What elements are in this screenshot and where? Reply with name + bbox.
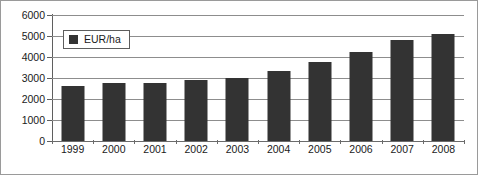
bar xyxy=(267,71,290,141)
x-axis-labels: 1999200020012002200320042005200620072008 xyxy=(52,144,464,164)
bar-chart: 0100020003000400050006000 19992000200120… xyxy=(0,0,478,175)
x-axis-tick xyxy=(134,140,135,144)
x-axis-tick xyxy=(93,140,94,144)
legend-label: EUR/ha xyxy=(84,34,121,45)
y-axis-tick-label: 6000 xyxy=(3,10,45,21)
y-axis-labels: 0100020003000400050006000 xyxy=(1,1,45,175)
y-axis-tick-label: 1000 xyxy=(3,115,45,126)
bar-slot xyxy=(217,15,258,141)
x-axis-tick xyxy=(217,140,218,144)
x-axis-tick-label: 2008 xyxy=(432,144,455,155)
legend-swatch-icon xyxy=(69,35,78,44)
x-axis-tick-label: 2001 xyxy=(143,144,166,155)
x-axis-tick-label: 2003 xyxy=(226,144,249,155)
bar-slot xyxy=(176,15,217,141)
y-axis-tick-label: 0 xyxy=(3,136,45,147)
bar-slot xyxy=(258,15,299,141)
y-axis-tick-label: 3000 xyxy=(3,73,45,84)
x-axis-tick-label: 2007 xyxy=(391,144,414,155)
x-axis-tick-label: 2006 xyxy=(349,144,372,155)
bar-slot xyxy=(382,15,423,141)
legend: EUR/ha xyxy=(63,30,130,49)
x-axis-tick xyxy=(340,140,341,144)
x-axis-tick xyxy=(423,140,424,144)
bar xyxy=(226,78,249,141)
bar-slot xyxy=(134,15,175,141)
x-axis-tick xyxy=(258,140,259,144)
x-axis-tick-label: 2000 xyxy=(102,144,125,155)
bar xyxy=(61,86,84,141)
bar-slot xyxy=(299,15,340,141)
bar xyxy=(143,83,166,141)
x-axis-tick xyxy=(382,140,383,144)
bar xyxy=(349,52,372,141)
x-axis-tick-label: 2002 xyxy=(185,144,208,155)
x-axis-tick xyxy=(52,140,53,144)
bar xyxy=(391,40,414,141)
y-axis-tick-label: 4000 xyxy=(3,52,45,63)
y-axis-tick-label: 2000 xyxy=(3,94,45,105)
x-axis-tick-label: 2005 xyxy=(308,144,331,155)
x-axis-tick-label: 2004 xyxy=(267,144,290,155)
x-axis-tick xyxy=(176,140,177,144)
bar xyxy=(432,34,455,141)
x-axis-tick-label: 1999 xyxy=(61,144,84,155)
bar xyxy=(185,80,208,141)
bar-slot xyxy=(423,15,464,141)
x-axis-tick xyxy=(299,140,300,144)
bar-slot xyxy=(340,15,381,141)
bar xyxy=(102,83,125,141)
bar xyxy=(308,62,331,141)
x-axis-tick xyxy=(464,140,465,144)
y-axis-tick-label: 5000 xyxy=(3,31,45,42)
